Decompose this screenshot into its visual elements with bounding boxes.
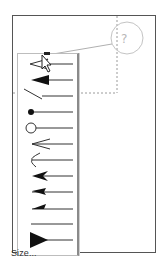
filled-arrowhead-icon [18,72,77,88]
menu-item-open-circle[interactable] [18,120,77,136]
dot-arrowhead-icon [18,104,77,120]
half-arrowhead-icon [18,184,77,200]
menu-item-stealth[interactable] [18,168,77,184]
menu-item-half-arrow-small[interactable] [18,200,77,216]
open-v-arrowhead-icon [18,136,77,152]
menu-item-large-triangle[interactable] [18,230,77,250]
menu-item-half-arrow-upper[interactable] [18,184,77,200]
menu-anchor-handle [44,52,50,55]
menu-item-open-arrow[interactable] [18,56,77,72]
large-triangle-arrowhead-icon [18,230,77,250]
open-circle-arrowhead-icon [18,120,77,136]
menu-item-dot[interactable] [18,104,77,120]
drawing-canvas: ? [0,0,164,274]
menu-item-curved-open[interactable] [18,152,77,168]
small-half-arrowhead-icon [18,200,77,216]
open-arrowhead-icon [18,56,77,72]
menu-item-slash[interactable] [18,88,77,104]
slash-arrowhead-icon [18,88,77,104]
arrowhead-style-menu[interactable] [17,53,79,256]
size-menu-item[interactable]: Size... [11,248,37,258]
help-callout-icon: ? [121,32,127,46]
curved-arrowhead-icon [18,152,77,168]
menu-item-filled-arrow[interactable] [18,72,77,88]
stealth-arrowhead-icon [18,168,77,184]
menu-item-open-v[interactable] [18,136,77,152]
